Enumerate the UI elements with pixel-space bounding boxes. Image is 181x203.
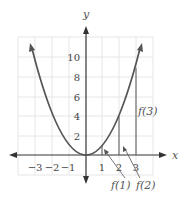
y-tick-10: 10 bbox=[67, 52, 80, 63]
x-tick-1: 1 bbox=[99, 162, 105, 173]
label-f1: f(1) bbox=[110, 179, 131, 192]
arrow-left-icon bbox=[9, 152, 17, 158]
y-tick-6: 6 bbox=[74, 92, 80, 103]
y-tick-4: 4 bbox=[74, 111, 80, 122]
x-tick-neg3: −3 bbox=[28, 162, 43, 173]
arrow-down-icon bbox=[83, 176, 89, 184]
arrow-up-icon bbox=[83, 26, 89, 34]
curve-arrow-left-icon bbox=[29, 43, 35, 52]
y-axis-label: y bbox=[82, 8, 90, 21]
x-tick-neg1: −1 bbox=[61, 162, 76, 173]
label-f2: f(2) bbox=[135, 179, 156, 192]
x-tick-neg2: −2 bbox=[45, 162, 60, 173]
y-axis bbox=[83, 26, 89, 184]
x-tick-2: 2 bbox=[116, 162, 122, 173]
x-axis-label: x bbox=[172, 149, 179, 162]
x-tick-3: 3 bbox=[133, 162, 139, 173]
y-tick-8: 8 bbox=[74, 72, 80, 83]
parabola-chart: −3 −2 −1 1 2 3 2 4 6 8 10 x y f(3) f(1) … bbox=[0, 0, 181, 203]
label-f3: f(3) bbox=[137, 105, 158, 118]
curve-arrow-right-icon bbox=[137, 43, 143, 52]
arrow-right-icon bbox=[159, 152, 167, 158]
y-tick-2: 2 bbox=[74, 131, 80, 142]
